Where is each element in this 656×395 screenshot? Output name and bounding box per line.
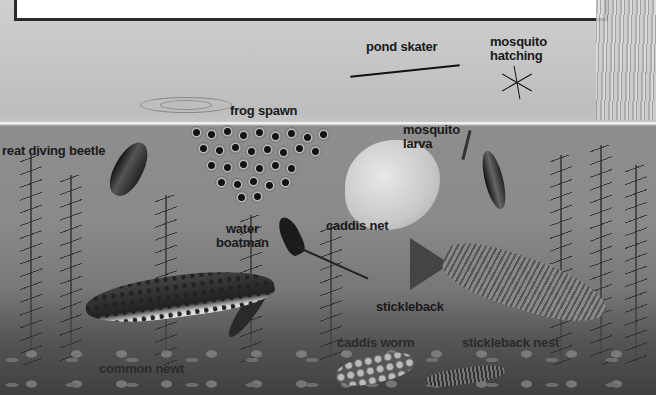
frog-spawn-illustration xyxy=(185,124,335,204)
pondweed-illustration xyxy=(600,145,602,365)
label-pond-skater: pond skater xyxy=(366,40,437,54)
pondweed-illustration xyxy=(330,225,332,365)
label-caddis-worm: caddis worm xyxy=(337,336,414,350)
label-great-diving-beetle: reat diving beetle xyxy=(2,144,105,158)
mosquito-larva-illustration xyxy=(461,130,471,160)
label-stickleback-nest: stickleback nest xyxy=(462,336,559,350)
label-mosquito-larva: mosquito larva xyxy=(403,123,460,151)
label-stickleback: stickleback xyxy=(376,300,444,314)
small-fish-illustration xyxy=(478,149,510,212)
pondweed-illustration xyxy=(70,175,72,365)
diving-beetle-illustration xyxy=(103,137,155,201)
label-common-newt: common newt xyxy=(99,362,184,376)
pondweed-illustration xyxy=(635,165,637,365)
reeds-illustration xyxy=(596,0,656,120)
pond-diagram: pond skater mosquito hatching frog spawn… xyxy=(0,0,656,395)
pondweed-illustration xyxy=(30,155,32,365)
label-caddis-net: caddis net xyxy=(326,219,388,233)
label-water-boatman: water boatman xyxy=(216,222,269,250)
pondweed-illustration xyxy=(560,155,562,365)
water-boatman-illustration xyxy=(274,214,307,258)
ripple-illustration xyxy=(160,100,212,110)
label-mosquito-hatching: mosquito hatching xyxy=(490,35,547,63)
mosquito-hatching-illustration xyxy=(500,70,534,96)
pond-skater-illustration xyxy=(350,64,460,77)
stickleback-illustration xyxy=(436,233,614,335)
label-frog-spawn: frog spawn xyxy=(230,104,297,118)
title-box xyxy=(14,0,608,21)
caddis-net-illustration xyxy=(345,140,440,230)
